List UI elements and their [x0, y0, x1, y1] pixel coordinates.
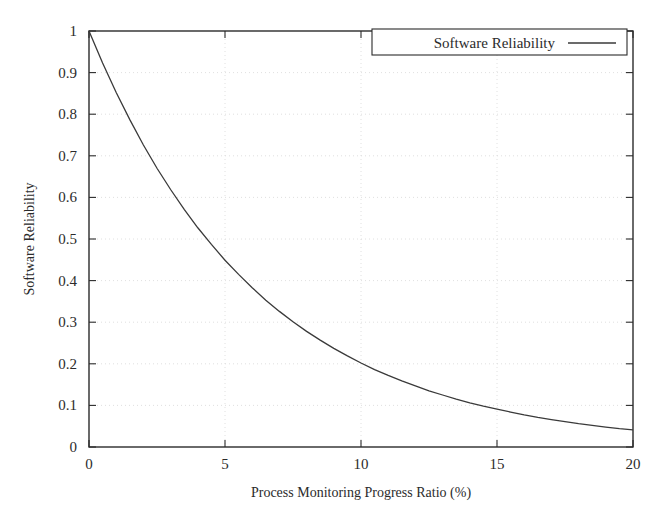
- y-tick-label: 1: [70, 23, 78, 39]
- chart-page: 05101520 00.10.20.30.40.50.60.70.80.91 P…: [0, 0, 655, 524]
- y-tick-label: 0.7: [58, 148, 77, 164]
- y-tick-label: 0.2: [58, 356, 77, 372]
- x-tick-label: 10: [354, 456, 369, 472]
- y-tick-label: 0.3: [58, 314, 77, 330]
- x-tick-label: 0: [85, 456, 93, 472]
- y-tick-label: 0.5: [58, 231, 77, 247]
- x-tick-label: 20: [626, 456, 641, 472]
- y-tick-label: 0.4: [58, 273, 77, 289]
- software-reliability-chart: 05101520 00.10.20.30.40.50.60.70.80.91 P…: [0, 0, 655, 524]
- x-tick-label: 15: [490, 456, 505, 472]
- y-tick-label: 0.9: [58, 65, 77, 81]
- x-axis-title: Process Monitoring Progress Ratio (%): [251, 485, 471, 501]
- x-tick-label: 5: [221, 456, 229, 472]
- y-tick-label: 0: [70, 439, 78, 455]
- legend-item-label: Software Reliability: [434, 35, 556, 51]
- y-tick-label: 0.6: [58, 189, 77, 205]
- chart-background: [0, 0, 655, 524]
- y-tick-label: 0.8: [58, 106, 77, 122]
- legend: Software Reliability: [372, 29, 627, 55]
- y-tick-label: 0.1: [58, 397, 77, 413]
- y-axis-title: Software Reliability: [22, 182, 37, 295]
